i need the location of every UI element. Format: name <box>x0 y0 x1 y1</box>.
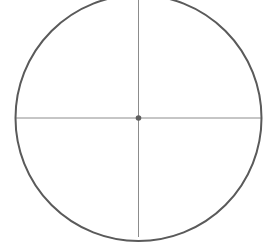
canvas-background <box>0 0 268 243</box>
center-point-dot <box>136 115 142 121</box>
circle-crosshair-figure <box>0 0 268 243</box>
diagram-canvas <box>0 0 268 243</box>
